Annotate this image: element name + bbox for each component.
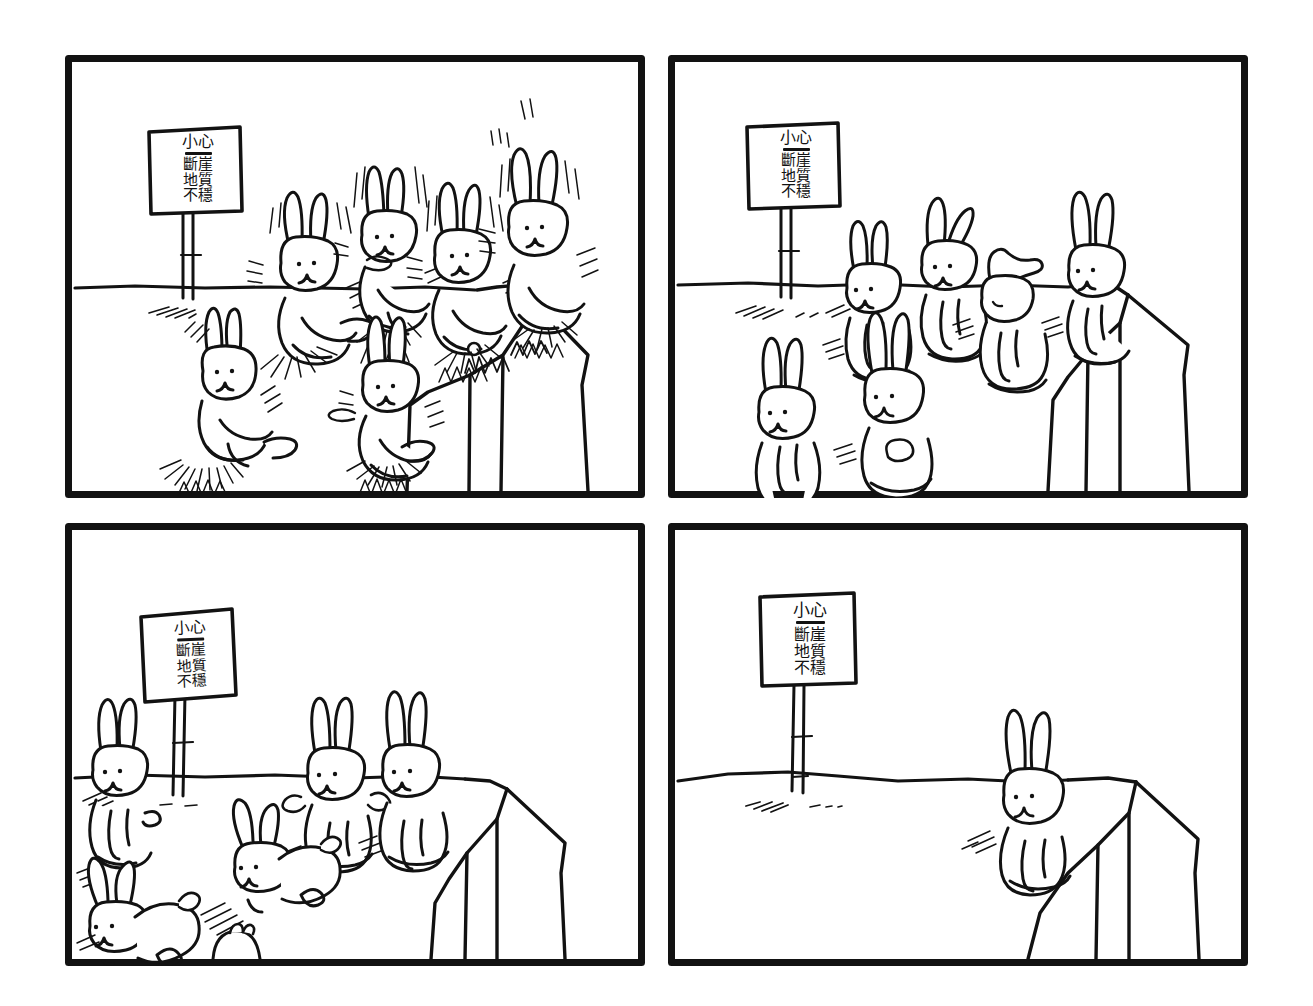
panel-3-artwork bbox=[65, 523, 645, 966]
panel-3-sign-board bbox=[141, 609, 236, 702]
panel-4-border bbox=[672, 527, 1245, 963]
panel-1-artwork bbox=[65, 55, 645, 498]
comic-page: 小心 斷崖 地質 不穩 bbox=[0, 0, 1313, 1006]
panel-2-sign-board bbox=[747, 123, 840, 209]
panel-4-sign-board bbox=[760, 593, 856, 686]
panel-3-border bbox=[69, 527, 642, 963]
comic-panel-3: 小心 斷崖 地質 不穩 bbox=[65, 523, 645, 966]
panel-2-artwork bbox=[668, 55, 1248, 498]
panel-4-artwork bbox=[668, 523, 1248, 966]
comic-panel-1: 小心 斷崖 地質 不穩 bbox=[65, 55, 645, 498]
comic-panel-4: 小心 斷崖 地質 不穩 bbox=[668, 523, 1248, 966]
panel-1-border bbox=[69, 59, 642, 495]
panel-1-sign-board bbox=[149, 127, 242, 214]
comic-panel-2: 小心 斷崖 地質 不穩 bbox=[668, 55, 1248, 498]
